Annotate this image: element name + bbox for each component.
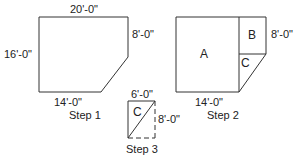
step3-dim-top: 6'-0" xyxy=(131,89,153,100)
step2-dim-bottom: 14'-0" xyxy=(195,97,223,108)
step1-dim-right: 8'-0" xyxy=(132,29,154,40)
step2-region-c: C xyxy=(241,57,250,69)
step2-region-b: B xyxy=(248,29,256,41)
step2-region-a: A xyxy=(200,48,208,60)
step1-dim-left: 16'-0" xyxy=(4,49,32,60)
step1-dim-bottom: 14'-0" xyxy=(54,97,82,108)
diagram-canvas xyxy=(0,0,306,167)
step1-floor-outline xyxy=(39,17,128,92)
step3-caption: Step 3 xyxy=(126,144,158,155)
step1-dim-top: 20'-0" xyxy=(70,4,98,15)
step3-dim-right: 8'-0" xyxy=(158,114,180,125)
step2-caption: Step 2 xyxy=(207,110,239,121)
step3-region-c: C xyxy=(133,106,142,118)
step1-caption: Step 1 xyxy=(69,110,101,121)
step2-dim-right: 8'-0" xyxy=(271,29,293,40)
